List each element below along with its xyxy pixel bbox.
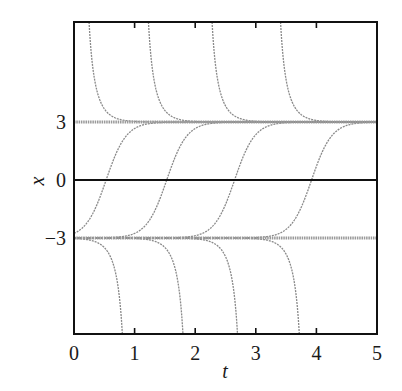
x-tick-label: 5 bbox=[372, 342, 382, 364]
plot-frame bbox=[74, 22, 377, 334]
lower-blowup-curve bbox=[74, 238, 122, 334]
x-axis-ticks: 012345 bbox=[69, 22, 382, 364]
upper-decay-curve bbox=[212, 22, 377, 122]
equilibrium-lines bbox=[74, 122, 377, 238]
x-tick-label: 0 bbox=[69, 342, 79, 364]
x-tick-label: 4 bbox=[311, 342, 321, 364]
phase-line-chart: 012345 30−3 t x bbox=[0, 0, 402, 391]
y-axis-label: x bbox=[26, 176, 48, 186]
lower-blowup-curve bbox=[74, 238, 183, 334]
y-tick-label: 3 bbox=[56, 111, 66, 133]
upper-decay-curve bbox=[89, 22, 377, 122]
x-axis-label: t bbox=[222, 360, 228, 382]
y-tick-label: −3 bbox=[45, 227, 66, 249]
upper-decay-curve bbox=[148, 22, 377, 122]
lower-blowup-curve bbox=[74, 238, 299, 334]
x-tick-label: 2 bbox=[190, 342, 200, 364]
s-curve bbox=[74, 122, 377, 233]
upper-decay-curve bbox=[281, 22, 377, 122]
x-tick-label: 1 bbox=[130, 342, 140, 364]
solution-curves bbox=[74, 22, 377, 334]
lower-blowup-curve bbox=[74, 238, 238, 334]
y-tick-label: 0 bbox=[56, 169, 66, 191]
x-tick-label: 3 bbox=[251, 342, 261, 364]
